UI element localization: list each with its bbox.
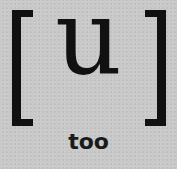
right-bracket-stem bbox=[157, 10, 166, 126]
left-bracket-bottom-bar bbox=[12, 119, 33, 126]
right-bracket-top-bar bbox=[145, 10, 166, 17]
right-bracket-icon bbox=[145, 10, 166, 126]
example-word: too bbox=[0, 131, 177, 153]
phonetic-symbol-card: u too bbox=[0, 0, 177, 169]
right-bracket-bottom-bar bbox=[145, 119, 166, 126]
